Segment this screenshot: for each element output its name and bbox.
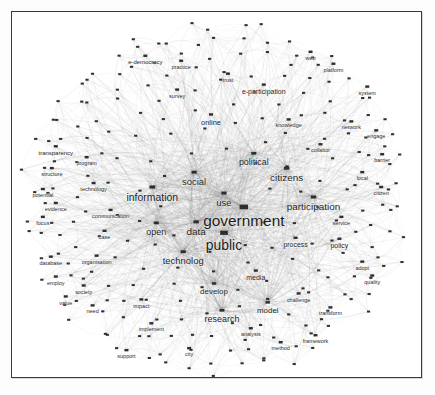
graph-node-minor[interactable] [270,247,273,249]
graph-node[interactable] [380,153,384,155]
graph-node-minor[interactable] [106,182,109,184]
graph-node-minor[interactable] [354,231,357,233]
graph-node[interactable] [92,182,96,184]
graph-canvas[interactable]: governmentpublicinformationparticipation… [12,12,421,377]
graph-node-minor[interactable] [388,230,391,232]
graph-node-minor[interactable] [170,335,173,337]
graph-node[interactable] [365,85,369,87]
graph-node[interactable] [212,282,216,284]
graph-node-minor[interactable] [383,118,386,120]
graph-node[interactable] [209,113,213,115]
graph-node-minor[interactable] [82,278,85,280]
graph-node[interactable] [379,186,383,188]
graph-node[interactable] [49,255,53,257]
graph-node-minor[interactable] [236,289,239,291]
graph-node-minor[interactable] [106,299,109,301]
graph-node-minor[interactable] [330,55,333,57]
graph-node-minor[interactable] [69,274,72,276]
graph-node-minor[interactable] [301,287,304,289]
graph-node-minor[interactable] [381,204,384,206]
graph-node-minor[interactable] [20,169,23,171]
graph-node[interactable] [82,284,86,286]
graph-node-minor[interactable] [396,205,399,207]
graph-node-minor[interactable] [132,38,135,40]
graph-node[interactable] [251,152,256,155]
graph-node-minor[interactable] [382,265,385,267]
graph-node[interactable] [287,118,291,120]
graph-node-minor[interactable] [136,46,139,48]
graph-node-minor[interactable] [326,276,329,278]
graph-node[interactable] [41,188,45,190]
graph-node-minor[interactable] [353,184,356,186]
graph-node-minor[interactable] [43,167,46,169]
graph-node-minor[interactable] [34,138,37,140]
graph-node-minor[interactable] [194,89,197,91]
graph-node-minor[interactable] [212,270,215,272]
graph-node-minor[interactable] [244,24,247,26]
graph-node-minor[interactable] [67,263,70,265]
graph-node-minor[interactable] [367,311,370,313]
graph-node-minor[interactable] [138,335,141,337]
graph-node[interactable] [179,60,183,62]
graph-node-minor[interactable] [165,43,168,45]
graph-node-minor[interactable] [176,267,179,269]
graph-node-minor[interactable] [371,246,374,248]
graph-node[interactable] [262,83,266,85]
graph-node[interactable] [193,220,198,223]
graph-node-minor[interactable] [367,114,370,116]
graph-node-minor[interactable] [317,269,320,271]
graph-node-minor[interactable] [244,339,247,341]
graph-node-minor[interactable] [247,348,250,350]
graph-node-minor[interactable] [261,117,264,119]
graph-node-minor[interactable] [116,98,119,100]
graph-node-minor[interactable] [76,196,79,198]
graph-node-minor[interactable] [330,240,333,242]
graph-node-minor[interactable] [154,244,157,246]
graph-node[interactable] [374,129,378,131]
graph-node[interactable] [309,51,313,53]
graph-node[interactable] [54,145,58,147]
graph-node-minor[interactable] [197,44,200,46]
graph-node-minor[interactable] [238,305,241,307]
graph-node[interactable] [360,260,364,262]
graph-node-minor[interactable] [72,221,75,223]
graph-node-minor[interactable] [173,283,176,285]
graph-node-minor[interactable] [145,299,148,301]
graph-node-minor[interactable] [52,119,55,121]
graph-node-minor[interactable] [222,71,225,73]
graph-node-minor[interactable] [180,53,183,55]
graph-node-minor[interactable] [180,318,183,320]
graph-node-minor[interactable] [288,40,291,42]
graph-node-minor[interactable] [400,261,403,263]
graph-node-minor[interactable] [260,23,263,25]
graph-node-minor[interactable] [264,141,267,143]
graph-node-minor[interactable] [291,258,294,260]
graph-node[interactable] [91,304,95,306]
graph-node-minor[interactable] [367,154,370,156]
graph-node-minor[interactable] [250,75,253,77]
graph-node-minor[interactable] [341,252,344,254]
graph-node-minor[interactable] [318,180,321,182]
graph-node-minor[interactable] [203,127,206,129]
graph-node-minor[interactable] [157,43,160,45]
graph-node-minor[interactable] [26,221,29,223]
graph-node-minor[interactable] [300,114,303,116]
graph-node-minor[interactable] [285,165,288,167]
graph-node-minor[interactable] [85,79,88,81]
graph-node-minor[interactable] [44,202,47,204]
graph-node-minor[interactable] [188,367,191,369]
graph-node-minor[interactable] [395,182,398,184]
graph-node-minor[interactable] [244,244,247,246]
graph-node-minor[interactable] [164,361,167,363]
graph-node[interactable] [331,63,335,65]
graph-node-minor[interactable] [100,152,103,154]
graph-node-minor[interactable] [398,154,401,156]
graph-node-minor[interactable] [67,319,70,321]
graph-node-minor[interactable] [266,51,269,53]
graph-node-minor[interactable] [107,285,110,287]
graph-node-minor[interactable] [329,100,332,102]
graph-node-minor[interactable] [343,119,346,121]
graph-node-minor[interactable] [206,29,209,31]
graph-node-minor[interactable] [266,42,269,44]
graph-node-minor[interactable] [138,220,141,222]
